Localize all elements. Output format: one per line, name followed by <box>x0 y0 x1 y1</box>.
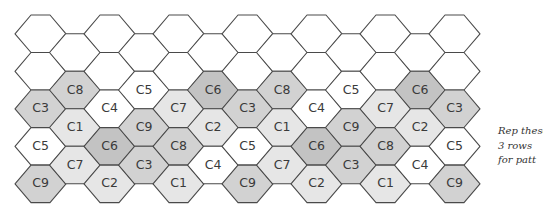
hex-color-label: C8 <box>67 82 84 97</box>
hexagon-pattern-chart: C3C5C9C8C1C7C4C6C2C5C9C3C7C8C1C6C2C4C3C5… <box>0 0 490 220</box>
hex-color-label: C9 <box>446 175 463 190</box>
hex-color-label: C5 <box>343 82 360 97</box>
hex-color-label: C2 <box>412 119 429 134</box>
hex-color-label: C9 <box>136 119 153 134</box>
note-line-1: Rep these <box>498 124 543 139</box>
note-line-3: for patt <box>498 153 543 168</box>
hex-grid: C3C5C9C8C1C7C4C6C2C5C9C3C7C8C1C6C2C4C3C5… <box>15 15 480 203</box>
hex-color-label: C1 <box>274 119 291 134</box>
hex-color-label: C3 <box>32 100 49 115</box>
repeat-instruction-note: Rep these 3 rows for patt <box>498 124 543 168</box>
hex-color-label: C7 <box>170 100 187 115</box>
hex-color-label: C2 <box>205 119 222 134</box>
hex-color-label: C1 <box>377 175 394 190</box>
hex-color-label: C2 <box>101 175 118 190</box>
hex-color-label: C4 <box>101 100 118 115</box>
hex-color-label: C8 <box>274 82 291 97</box>
hex-color-label: C5 <box>446 138 463 153</box>
hex-color-label: C9 <box>239 175 256 190</box>
hex-color-label: C1 <box>170 175 187 190</box>
note-line-2: 3 rows <box>498 139 543 154</box>
hex-color-label: C5 <box>136 82 153 97</box>
hex-color-label: C5 <box>32 138 49 153</box>
hex-color-label: C7 <box>67 157 84 172</box>
hex-color-label: C5 <box>239 138 256 153</box>
hex-color-label: C1 <box>67 119 84 134</box>
hex-color-label: C9 <box>32 175 49 190</box>
hex-color-label: C4 <box>205 157 222 172</box>
hex-color-label: C3 <box>136 157 153 172</box>
hex-color-label: C3 <box>446 100 463 115</box>
hex-color-label: C8 <box>377 138 394 153</box>
hex-color-label: C9 <box>343 119 360 134</box>
hex-color-label: C3 <box>239 100 256 115</box>
hex-color-label: C3 <box>343 157 360 172</box>
hex-color-label: C6 <box>308 138 325 153</box>
hex-color-label: C2 <box>308 175 325 190</box>
hex-color-label: C8 <box>170 138 187 153</box>
hex-color-label: C7 <box>377 100 394 115</box>
hex-color-label: C4 <box>308 100 325 115</box>
hex-color-label: C6 <box>205 82 222 97</box>
hex-color-label: C6 <box>412 82 429 97</box>
hex-color-label: C4 <box>412 157 429 172</box>
hex-color-label: C6 <box>101 138 118 153</box>
hex-color-label: C7 <box>274 157 291 172</box>
